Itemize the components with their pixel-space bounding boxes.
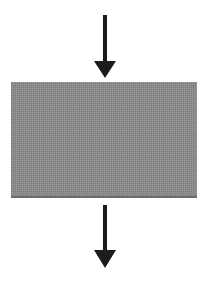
process-box-texture-noise [11,82,197,198]
flowchart-svg [0,0,205,283]
process-box-bottom-edge [11,196,197,198]
arrow-down-top-icon [94,15,116,78]
arrow-down-bottom-icon [94,205,116,268]
diagram-canvas [0,0,205,283]
